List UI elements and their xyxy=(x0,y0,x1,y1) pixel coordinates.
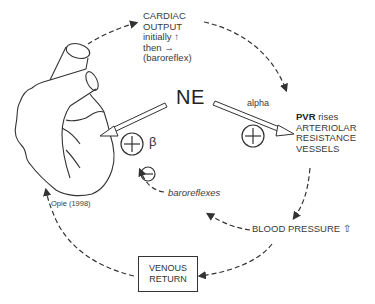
minus-circle-icon xyxy=(141,167,155,181)
pvr-label: PVR rises ARTERIOLAR RESISTANCE VESSELS xyxy=(296,112,357,154)
arrow-cardiac-output-to-pvr xyxy=(204,22,286,90)
pvr-rises: rises xyxy=(316,111,339,122)
cardiac-output-line3: initially ↑ xyxy=(143,32,192,43)
venous-return-line2: RETURN xyxy=(139,274,197,285)
beta-label: β xyxy=(149,137,156,148)
arrow-baroreflexes-to-beta xyxy=(140,170,164,192)
beta-arrow xyxy=(100,103,167,136)
baroreflexes-label: baroreflexes xyxy=(168,188,220,199)
cardiac-output-label: CARDIAC OUTPUT initially ↑ then → (baror… xyxy=(143,11,192,64)
citation-label: Opie (1998) xyxy=(51,199,91,210)
heart-icon xyxy=(15,41,114,196)
cardiac-output-line1: CARDIAC xyxy=(143,11,192,22)
alpha-label: alpha xyxy=(247,98,269,109)
venous-return-box: VENOUS RETURN xyxy=(138,256,198,292)
arrow-pvr-to-bp xyxy=(294,168,310,218)
plus-circle-beta-icon xyxy=(121,133,143,155)
plus-circle-alpha-icon xyxy=(242,125,264,147)
ne-label: NE xyxy=(176,86,205,109)
pvr-bold: PVR xyxy=(296,111,316,122)
cardiac-output-line5: (baroreflex) xyxy=(143,53,192,64)
arrow-heart-to-cardiac-output xyxy=(88,23,136,44)
arrow-bp-to-venous-return xyxy=(200,244,272,276)
pvr-line4: VESSELS xyxy=(296,144,357,155)
pvr-line3: RESISTANCE xyxy=(296,133,357,144)
blood-pressure-label: BLOOD PRESSURE ⇧ xyxy=(252,224,351,235)
arrow-bp-to-baroreflexes xyxy=(208,214,250,230)
venous-return-line1: VENOUS xyxy=(139,263,197,274)
